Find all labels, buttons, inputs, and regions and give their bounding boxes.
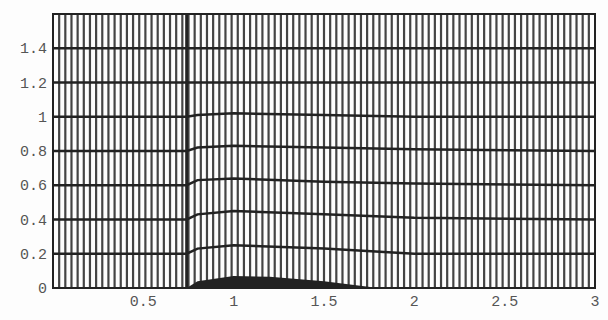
y-tick-label: 0.6 — [20, 178, 47, 195]
curve-level-1.0 — [53, 113, 595, 116]
x-axis-tick-labels: 0.511.522.53 — [130, 294, 600, 311]
y-tick-label: 0.4 — [20, 213, 47, 230]
y-tick-label: 1.2 — [20, 76, 47, 93]
y-tick-label: 1.4 — [20, 41, 47, 58]
x-tick-label: 0.5 — [130, 294, 157, 311]
y-tick-label: 1 — [38, 110, 47, 127]
x-tick-label: 3 — [590, 294, 599, 311]
y-axis-tick-labels: 00.20.40.60.811.21.4 — [20, 41, 47, 298]
x-tick-label: 2.5 — [491, 294, 518, 311]
y-tick-label: 0.8 — [20, 144, 47, 161]
x-tick-label: 1 — [229, 294, 238, 311]
x-tick-label: 2 — [410, 294, 419, 311]
chart: 0.511.522.53 00.20.40.60.811.21.4 — [0, 0, 608, 320]
y-tick-label: 0 — [38, 281, 47, 298]
x-tick-label: 1.5 — [310, 294, 337, 311]
y-tick-label: 0.2 — [20, 247, 47, 264]
